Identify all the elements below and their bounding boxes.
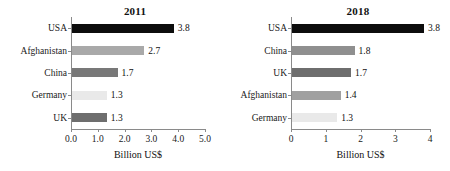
bar bbox=[292, 46, 355, 55]
chart-title-2011: 2011 bbox=[60, 5, 210, 17]
category-tick bbox=[288, 28, 291, 29]
value-axis-tick bbox=[178, 129, 179, 132]
value-axis-tick-label: 4 bbox=[415, 134, 445, 145]
value-axis-tick-label: 3.0 bbox=[136, 134, 166, 145]
value-axis-tick-label: 0.0 bbox=[56, 134, 86, 145]
value-axis-tick-label: 4.0 bbox=[163, 134, 193, 145]
bar-value-label: 1.7 bbox=[122, 68, 134, 78]
bar-value-label: 1.3 bbox=[341, 113, 353, 123]
bar-row: UK1.3 bbox=[0, 107, 225, 129]
bar-value-label: 1.7 bbox=[355, 68, 367, 78]
bar bbox=[292, 113, 337, 122]
category-tick bbox=[288, 73, 291, 74]
value-axis-tick bbox=[430, 129, 431, 132]
category-label: USA bbox=[225, 23, 287, 33]
category-tick bbox=[288, 118, 291, 119]
bar bbox=[72, 91, 107, 100]
category-label: Germany bbox=[0, 90, 67, 100]
value-axis-tick-label: 0 bbox=[276, 134, 306, 145]
bar-value-label: 1.8 bbox=[359, 46, 371, 56]
bar bbox=[72, 113, 107, 122]
bar-row: Afghanistan2.7 bbox=[0, 39, 225, 61]
value-axis-tick-label: 2.0 bbox=[110, 134, 140, 145]
x-axis-title-2011: Billion US$ bbox=[71, 149, 205, 160]
value-axis-tick bbox=[98, 129, 99, 132]
category-label: Afghanistan bbox=[0, 46, 67, 56]
bar-row: Germany1.3 bbox=[225, 107, 450, 129]
chart-title-2018: 2018 bbox=[283, 5, 433, 17]
bar-row: USA3.8 bbox=[225, 17, 450, 39]
chart-panel-2018: 2018 USA3.8China1.8UK1.7Afghanistan1.4Ge… bbox=[225, 0, 450, 171]
bar bbox=[72, 24, 174, 33]
bar-value-label: 1.3 bbox=[111, 90, 123, 100]
value-axis-tick bbox=[361, 129, 362, 132]
bar bbox=[72, 46, 144, 55]
category-label: UK bbox=[0, 113, 67, 123]
value-axis-tick bbox=[205, 129, 206, 132]
bar-value-label: 1.4 bbox=[345, 90, 357, 100]
bar bbox=[72, 68, 118, 77]
value-axis-tick-label: 2 bbox=[346, 134, 376, 145]
chart-panel-2011: 2011 USA3.8Afghanistan2.7China1.7Germany… bbox=[0, 0, 225, 171]
bar-row: Afghanistan1.4 bbox=[225, 84, 450, 106]
category-tick bbox=[288, 95, 291, 96]
bar-rows-2011: USA3.8Afghanistan2.7China1.7Germany1.3UK… bbox=[0, 17, 225, 129]
category-tick bbox=[288, 51, 291, 52]
value-axis-tick-label: 1.0 bbox=[83, 134, 113, 145]
bar-row: China1.8 bbox=[225, 39, 450, 61]
category-label: Germany bbox=[225, 113, 287, 123]
bar bbox=[292, 24, 424, 33]
value-axis-tick-label: 1 bbox=[311, 134, 341, 145]
category-label: UK bbox=[225, 68, 287, 78]
category-tick bbox=[68, 28, 71, 29]
category-tick bbox=[68, 118, 71, 119]
bar-value-label: 3.8 bbox=[428, 23, 440, 33]
bar bbox=[292, 91, 341, 100]
category-label: China bbox=[0, 68, 67, 78]
bar-row: China1.7 bbox=[0, 62, 225, 84]
bar-value-label: 2.7 bbox=[148, 46, 160, 56]
bar-rows-2018: USA3.8China1.8UK1.7Afghanistan1.4Germany… bbox=[225, 17, 450, 129]
category-tick bbox=[68, 73, 71, 74]
value-axis-tick-label: 5.0 bbox=[190, 134, 220, 145]
value-axis-tick bbox=[151, 129, 152, 132]
value-axis-tick bbox=[395, 129, 396, 132]
category-tick bbox=[68, 51, 71, 52]
bar-row: USA3.8 bbox=[0, 17, 225, 39]
bar-value-label: 1.3 bbox=[111, 113, 123, 123]
bar bbox=[292, 68, 351, 77]
category-label: China bbox=[225, 46, 287, 56]
category-tick bbox=[68, 95, 71, 96]
category-label: USA bbox=[0, 23, 67, 33]
bar-chart-figure: 2011 USA3.8Afghanistan2.7China1.7Germany… bbox=[0, 0, 450, 171]
category-label: Afghanistan bbox=[225, 90, 287, 100]
plot-area-2018: USA3.8China1.8UK1.7Afghanistan1.4Germany… bbox=[225, 17, 450, 129]
value-axis-tick bbox=[71, 129, 72, 132]
value-axis-tick-label: 3 bbox=[380, 134, 410, 145]
bar-value-label: 3.8 bbox=[178, 23, 190, 33]
bar-row: Germany1.3 bbox=[0, 84, 225, 106]
value-axis-tick bbox=[125, 129, 126, 132]
value-axis-tick bbox=[291, 129, 292, 132]
value-axis-line bbox=[71, 129, 205, 130]
bar-row: UK1.7 bbox=[225, 62, 450, 84]
x-axis-title-2018: Billion US$ bbox=[291, 149, 430, 160]
value-axis-tick bbox=[326, 129, 327, 132]
plot-area-2011: USA3.8Afghanistan2.7China1.7Germany1.3UK… bbox=[0, 17, 225, 129]
